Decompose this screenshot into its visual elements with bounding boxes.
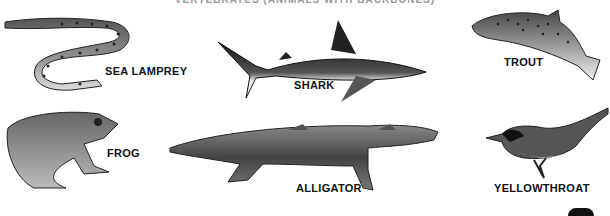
- frog-label: FROG: [107, 147, 140, 159]
- trout-label: TROUT: [504, 56, 543, 68]
- sea-lamprey-label: SEA LAMPREY: [105, 65, 187, 77]
- sea-lamprey-illustration: [2, 14, 142, 94]
- alligator-label: ALLIGATOR: [296, 182, 362, 194]
- yellowthroat-illustration: [484, 106, 610, 182]
- yellowthroat-label: YELLOWTHROAT: [494, 182, 590, 194]
- frog-illustration: [4, 108, 122, 192]
- trout-illustration: [468, 4, 603, 80]
- partial-illustration: [568, 208, 594, 216]
- shark-label: SHARK: [294, 79, 335, 91]
